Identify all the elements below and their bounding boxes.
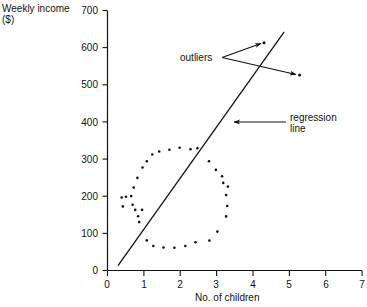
x-tick-label-0: 0 — [100, 279, 114, 290]
regression-line — [118, 32, 284, 266]
x-axis-title: No. of children — [195, 292, 259, 303]
y-tick-label-100: 100 — [72, 228, 98, 239]
y-tick-label-600: 600 — [72, 42, 98, 53]
x-tick-label-5: 5 — [282, 279, 296, 290]
x-tick-label-6: 6 — [319, 279, 333, 290]
y-axis-title-line1: Weekly income — [2, 3, 70, 14]
annotation-leaders — [222, 44, 296, 123]
y-tick-label-0: 0 — [72, 265, 98, 276]
x-tick-label-3: 3 — [209, 279, 223, 290]
y-tick-label-300: 300 — [72, 154, 98, 165]
y-tick-label-500: 500 — [72, 79, 98, 90]
plot-canvas — [0, 0, 367, 307]
x-tick-label-2: 2 — [173, 279, 187, 290]
x-tick-label-4: 4 — [246, 279, 260, 290]
x-axis-ticks — [108, 271, 363, 277]
axis-lines — [108, 11, 363, 271]
annotation-outliers-label: outliers — [180, 52, 212, 63]
x-tick-label-1: 1 — [137, 279, 151, 290]
annotation-regression-label-line1: regression — [290, 112, 337, 123]
y-axis-title-line2: ($) — [2, 14, 14, 25]
scatter-points-cloud — [120, 147, 229, 250]
y-tick-label-700: 700 — [72, 5, 98, 16]
y-axis-ticks — [103, 11, 108, 271]
annotation-regression-label-line2: line — [290, 123, 306, 134]
outlier-leader-lower — [222, 58, 296, 75]
outlier-leader-upper — [222, 44, 261, 58]
scatter-plot-figure: Weekly income ($) 700 600 500 400 300 20… — [0, 0, 367, 307]
y-tick-label-400: 400 — [72, 117, 98, 128]
y-tick-label-200: 200 — [72, 191, 98, 202]
x-tick-label-7: 7 — [355, 279, 367, 290]
